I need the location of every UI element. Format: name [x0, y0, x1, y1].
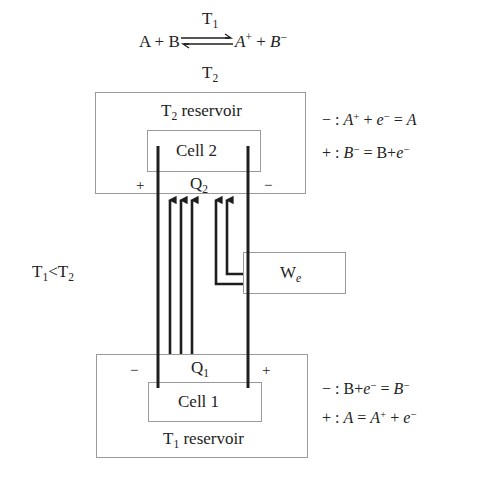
heat-flow-arrows	[170, 200, 192, 354]
reversible-reaction-arrow	[181, 34, 233, 48]
conductor-wires	[158, 146, 248, 388]
circuit-wires	[0, 0, 477, 480]
work-flow-arrows	[216, 200, 243, 284]
